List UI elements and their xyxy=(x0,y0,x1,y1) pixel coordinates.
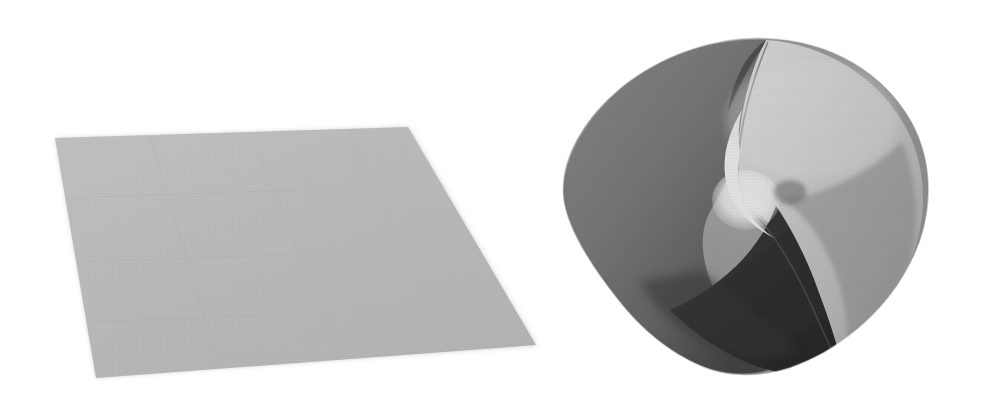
figure-canvas: Flat plane in perspective Boy's surface … xyxy=(0,0,982,405)
surfaces-illustration xyxy=(0,0,982,405)
